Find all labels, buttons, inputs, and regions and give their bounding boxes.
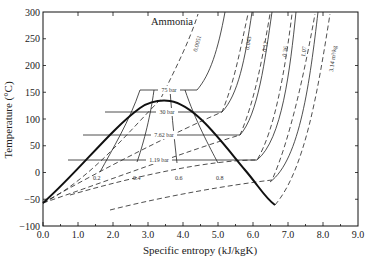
isobar-label-30: 30 bar: [159, 109, 174, 115]
isobar-superheat-lines: [197, 12, 318, 182]
y-tick-100: 100: [25, 114, 40, 125]
x-tick-8: 8.0: [317, 229, 330, 240]
volume-label-036: 0.36: [281, 46, 289, 57]
x-tick-1: 1.0: [72, 229, 85, 240]
y-tick-m50: −50: [24, 194, 40, 205]
y-tick-200: 200: [25, 60, 40, 71]
y-axis-title: Temperature (°C): [2, 81, 15, 159]
x-axis-ticks: [43, 12, 341, 226]
volume-label-012: 0.12: [261, 41, 269, 52]
x-tick-6: 6.0: [247, 229, 260, 240]
x-axis-title: Specific entropy (kJ/kgK): [143, 244, 258, 257]
y-tick-150: 150: [25, 87, 40, 98]
volume-label-107: 1.07: [300, 46, 307, 57]
x-tick-7: 7.0: [282, 229, 295, 240]
y-tick-m100: −100: [19, 221, 40, 232]
x-tick-3: 3.0: [142, 229, 155, 240]
isobar-label-119: 1.19 bar: [149, 157, 169, 163]
x-tick-5: 5.0: [212, 229, 225, 240]
quality-label-08: 0.8: [216, 175, 224, 181]
x-tick-labels: 0.0 1.0 2.0 3.0 4.0 5.0 6.0 7.0 8.0 9.0: [37, 229, 365, 240]
saturation-dome: [43, 101, 275, 205]
volume-label-0051: 0.0051: [192, 35, 202, 52]
isobar-labels: 75 bar 30 bar 7.62 bar 1.19 bar: [146, 86, 180, 164]
y-tick-250: 250: [25, 33, 40, 44]
isobar-label-75: 75 bar: [161, 87, 176, 93]
isobar-label-762: 7.62 bar: [154, 132, 174, 138]
x-tick-9: 9.0: [352, 229, 365, 240]
y-tick-labels: 300 250 200 150 100 50 0 −50 −100: [19, 7, 40, 232]
quality-label-04: 0.4: [133, 175, 141, 181]
y-tick-50: 50: [30, 140, 40, 151]
y-tick-300: 300: [25, 7, 40, 18]
volume-label-314: 3.14 m³/kg: [328, 45, 338, 72]
quality-labels: 0.2 0.4 0.6 0.8: [93, 175, 224, 181]
chart-title: Ammonia: [151, 16, 193, 27]
quality-label-02: 0.2: [93, 175, 101, 181]
specific-volume-labels: 0.0051 0.043 0.12 0.36 1.07 3.14 m³/kg: [192, 35, 337, 72]
quality-label-06: 0.6: [175, 175, 183, 181]
volume-label-043: 0.043: [244, 36, 252, 50]
y-tick-0: 0: [35, 167, 40, 178]
x-tick-4: 4.0: [177, 229, 190, 240]
x-tick-2: 2.0: [107, 229, 120, 240]
ts-diagram: 0.0 1.0 2.0 3.0 4.0 5.0 6.0 7.0 8.0 9.0 …: [0, 0, 373, 263]
